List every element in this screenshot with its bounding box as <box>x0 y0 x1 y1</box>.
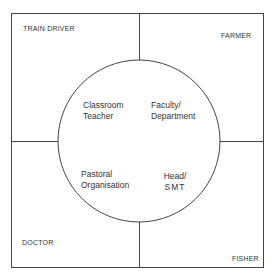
quadrant-line: Pastoral <box>81 169 129 180</box>
quadrant-pastoral-organisation: Pastoral Organisation <box>81 169 129 191</box>
quadrant-line: Head/ <box>160 171 190 182</box>
outer-box <box>12 14 264 268</box>
corner-label-doctor: DOCTOR <box>22 239 53 246</box>
quadrant-classroom-teacher: Classroom Teacher <box>83 100 124 122</box>
corner-label-train-driver: TRAIN DRIVER <box>23 25 75 32</box>
quadrant-line: Faculty/ <box>151 100 195 111</box>
quadrant-head-smt: Head/ SMT <box>160 171 190 193</box>
quadrant-faculty-department: Faculty/ Department <box>151 100 195 122</box>
diagram-lines <box>0 0 275 278</box>
quadrant-line: Classroom <box>83 100 124 111</box>
quadrant-line: SMT <box>160 182 190 193</box>
central-circle <box>58 60 220 222</box>
quadrant-line: Department <box>151 111 195 122</box>
corner-label-farmer: FARMER <box>221 32 251 39</box>
corner-label-fisher: FISHER <box>232 255 259 262</box>
quadrant-line: Organisation <box>81 180 129 191</box>
quadrant-line: Teacher <box>83 111 124 122</box>
